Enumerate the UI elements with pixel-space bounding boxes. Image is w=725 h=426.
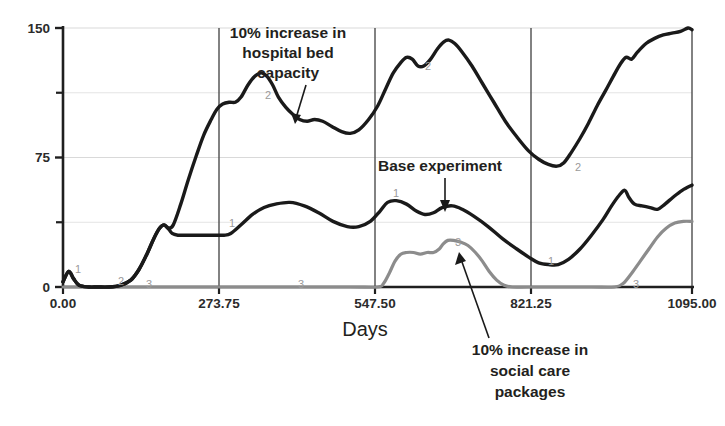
annot-hospital-leader-line xyxy=(296,85,306,118)
xtick-label-1: 273.75 xyxy=(198,296,240,311)
series-point-label-3: 3 xyxy=(298,278,304,290)
line-chart-svg: 150 75 0 0.00 273.75 547.50 821.25 1095.… xyxy=(0,0,725,426)
series-point-label-3: 3 xyxy=(146,278,152,290)
annot-hospital-line-3: capacity xyxy=(257,64,319,81)
annot-social-line-3: packages xyxy=(495,383,566,400)
chart-container: 150 75 0 0.00 273.75 547.50 821.25 1095.… xyxy=(0,0,725,426)
xtick-label-2: 547.50 xyxy=(354,296,395,311)
series-point-label-1: 1 xyxy=(75,263,81,275)
series-point-label-2: 2 xyxy=(265,89,271,101)
xtick-label-3: 821.25 xyxy=(510,296,552,311)
series-point-label-2: 2 xyxy=(118,275,124,287)
annot-hospital-line-1: 10% increase in xyxy=(230,24,346,41)
annot-hospital-line-2: hospital bed xyxy=(242,44,333,61)
annot-base-line-1: Base experiment xyxy=(378,157,502,174)
series-point-label-2: 2 xyxy=(425,60,431,72)
annot-social-arrowhead xyxy=(455,252,466,265)
annot-social-care-packages: 10% increase in social care packages xyxy=(455,252,588,400)
series-line-base-experiment xyxy=(63,185,692,287)
annot-social-leader-line xyxy=(462,262,489,338)
series-point-label-1: 1 xyxy=(393,187,399,199)
series-point-label-1: 1 xyxy=(548,255,554,267)
ytick-label-75: 75 xyxy=(35,150,51,165)
annot-base-experiment: Base experiment xyxy=(378,157,502,212)
ytick-label-150: 150 xyxy=(27,21,50,36)
x-axis-title: Days xyxy=(342,318,388,340)
horizontal-gridlines xyxy=(63,28,692,222)
annot-social-line-1: 10% increase in xyxy=(472,341,588,358)
series-point-labels: 123321123123 xyxy=(75,60,639,290)
xtick-label-0: 0.00 xyxy=(50,296,76,311)
ytick-label-0: 0 xyxy=(42,280,50,295)
series-point-label-3: 3 xyxy=(455,236,461,248)
series-point-label-2: 2 xyxy=(575,161,581,173)
series-point-label-3: 3 xyxy=(633,278,639,290)
xtick-label-4: 1095.00 xyxy=(668,296,717,311)
series-point-label-1: 1 xyxy=(229,217,235,229)
y-axis xyxy=(55,26,63,288)
annot-social-line-2: social care xyxy=(490,362,571,379)
